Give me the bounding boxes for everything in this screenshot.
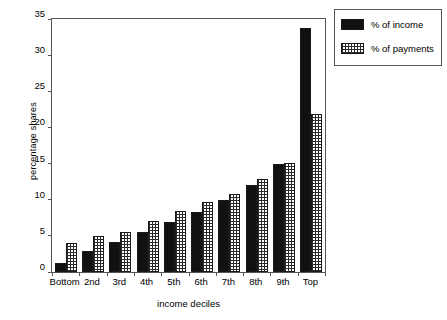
bar-payments (311, 114, 322, 272)
x-axis-tick-label: Bottom (50, 276, 80, 287)
bar-group (273, 19, 295, 272)
bar-payments (229, 194, 240, 272)
bar-group (164, 19, 186, 272)
bar-income (164, 222, 175, 272)
bar-payments (93, 236, 104, 272)
checkered-swatch (341, 43, 364, 54)
bar-group (82, 19, 104, 272)
bar-payments (120, 232, 131, 272)
x-axis-tick-label: 9th (276, 276, 289, 287)
x-axis-tick-labels: Bottom2nd3rd4th5th6th7th8th9thTop (51, 276, 326, 292)
bar-series-container (52, 19, 325, 272)
bar-group (246, 19, 268, 272)
bar-payments (148, 221, 159, 272)
bar-income (137, 232, 148, 272)
x-axis-tick-label: 2nd (84, 276, 100, 287)
bar-income (55, 263, 66, 272)
bar-income (218, 200, 229, 272)
x-axis-tick-label: 6th (195, 276, 208, 287)
legend-label-payments: % of payments (371, 43, 434, 54)
bar-payments (202, 202, 213, 272)
x-axis-tick-label: Top (303, 276, 318, 287)
bar-income (191, 212, 202, 272)
plot-area: 05101520253035 (51, 18, 326, 273)
bar-income (82, 251, 93, 272)
x-axis-tick-label: 8th (249, 276, 262, 287)
bar-payments (175, 211, 186, 272)
bar-group (300, 19, 322, 272)
bar-group (137, 19, 159, 272)
bar-income (109, 242, 120, 272)
x-axis-tick-label: 3rd (112, 276, 126, 287)
bar-group (109, 19, 131, 272)
legend-entry-income: % of income (341, 18, 423, 30)
solid-black-swatch (341, 19, 364, 30)
bar-group (191, 19, 213, 272)
legend-label-income: % of income (371, 19, 423, 30)
bar-group (55, 19, 77, 272)
x-axis-tick-label: 7th (222, 276, 235, 287)
x-axis-title: income deciles (51, 298, 326, 309)
legend-entry-payments: % of payments (341, 42, 434, 54)
bar-income (246, 185, 257, 272)
bar-group (218, 19, 240, 272)
bar-chart-figure: percentage shares 05101520253035 Bottom2… (0, 0, 447, 320)
bar-payments (66, 243, 77, 272)
bar-payments (284, 163, 295, 272)
x-axis-tick-label: 4th (140, 276, 153, 287)
bar-income (300, 28, 311, 272)
bar-income (273, 164, 284, 272)
chart-legend: % of income % of payments (334, 9, 442, 66)
x-axis-tick-label: 5th (167, 276, 180, 287)
bar-payments (257, 179, 268, 272)
